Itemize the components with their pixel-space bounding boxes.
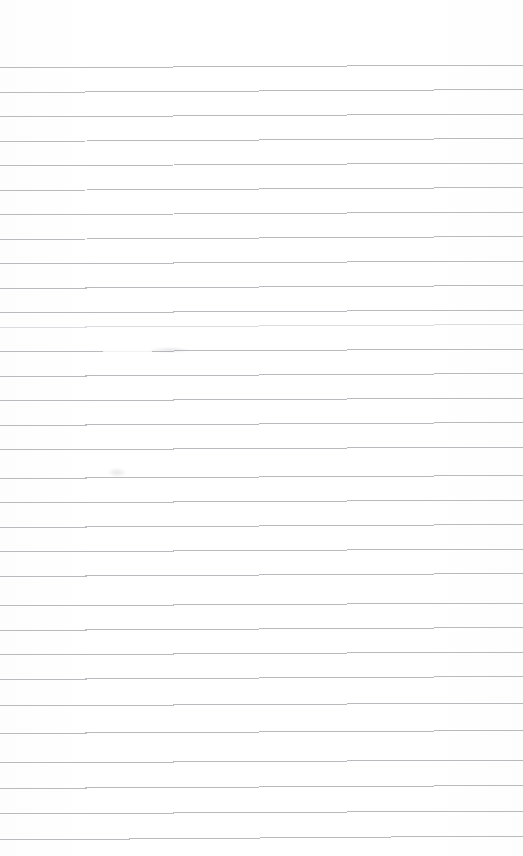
rule-line <box>0 325 523 328</box>
rule-line <box>0 286 523 289</box>
rule-line <box>0 374 523 377</box>
rule-line-group <box>0 65 523 840</box>
rule-line <box>0 398 523 401</box>
rule-line <box>0 525 523 528</box>
rule-line <box>0 603 523 606</box>
rule-line <box>0 574 523 577</box>
rule-line <box>0 90 523 93</box>
rule-line <box>0 703 523 706</box>
rule-line <box>0 549 523 552</box>
ruled-lines-layer <box>0 0 523 856</box>
rule-line <box>0 351 103 352</box>
ruled-lines-svg <box>0 0 523 856</box>
rule-line <box>0 188 523 191</box>
rule-line <box>0 423 523 426</box>
scanned-page <box>0 0 523 856</box>
rule-line <box>0 628 523 631</box>
rule-line <box>0 731 523 734</box>
rule-line <box>0 811 523 814</box>
rule-line <box>0 310 523 313</box>
rule-line <box>0 139 523 142</box>
rule-line <box>0 212 523 215</box>
rule-line <box>0 836 523 840</box>
rule-line <box>0 760 523 763</box>
rule-line <box>0 163 523 166</box>
rule-line <box>0 500 523 503</box>
rule-line <box>0 65 523 68</box>
rule-line <box>152 349 523 351</box>
rule-line <box>0 237 523 240</box>
rule-line <box>0 261 523 264</box>
rule-line <box>0 114 523 117</box>
rule-line <box>0 476 523 479</box>
rule-line <box>0 652 523 655</box>
rule-line <box>0 786 523 789</box>
rule-line <box>0 677 523 680</box>
rule-line <box>0 447 523 450</box>
